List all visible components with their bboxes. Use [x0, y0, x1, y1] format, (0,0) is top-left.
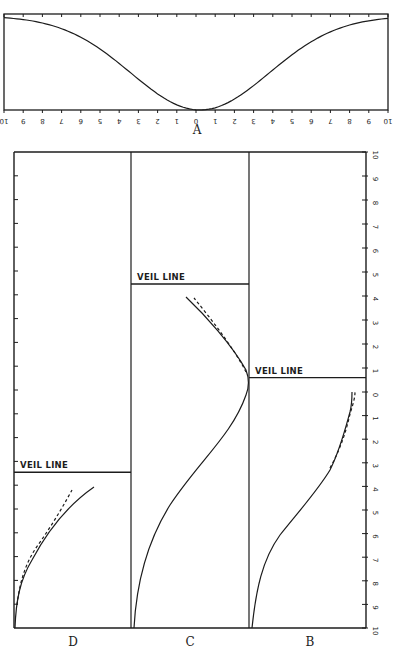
- panel-a-label: A: [192, 123, 202, 137]
- axis-a-tick-label: 2: [155, 117, 159, 125]
- axis-a-tick-label: 9: [367, 117, 371, 125]
- right-axis-tick-label: 3: [371, 321, 379, 325]
- right-axis-tick-label: 4: [371, 297, 379, 302]
- right-axis-tick-label: 4: [371, 487, 379, 492]
- panel-b-curve-solid: [252, 392, 352, 628]
- axis-a-tick-label: 2: [232, 117, 236, 125]
- panel-c-label: C: [185, 635, 194, 649]
- right-axis-tick-label: 5: [371, 273, 379, 277]
- right-axis-tick-label: 9: [371, 177, 379, 181]
- axis-a-tick-label: 7: [328, 117, 332, 125]
- axis-a-tick-label: 5: [290, 117, 294, 125]
- axis-a-tick-label: 8: [40, 117, 44, 125]
- axis-a-tick-label: 9: [21, 117, 25, 125]
- axis-a-tick-label: 1: [175, 117, 179, 125]
- axis-a-tick-label: 4: [116, 117, 121, 125]
- right-axis-tick-label: 7: [371, 225, 379, 229]
- right-axis-tick-label: 1: [371, 369, 379, 373]
- axis-a-tick-label: 10: [0, 117, 8, 125]
- right-axis-tick-label: 6: [371, 249, 379, 254]
- panel-d-curve-solid: [15, 487, 94, 628]
- axis-a-tick-label: 5: [98, 117, 102, 125]
- right-axis-tick-label: 5: [371, 511, 379, 515]
- axis-a-tick-label: 1: [213, 117, 217, 125]
- panel-c-veil-label: VEIL LINE: [137, 272, 185, 282]
- right-axis-tick-label: 10: [371, 151, 379, 160]
- panel-b-label: B: [306, 635, 315, 649]
- figure-canvas: 10987654321012345678910A1098765432101234…: [0, 0, 395, 654]
- panel-d-curve-dashed: [17, 490, 72, 605]
- right-axis-tick-label: 3: [371, 464, 379, 468]
- right-axis-tick-label: 8: [371, 201, 379, 205]
- axis-a-tick-label: 6: [308, 117, 313, 125]
- panel-b-veil-label: VEIL LINE: [255, 366, 303, 376]
- axis-a-tick-label: 3: [251, 117, 255, 125]
- right-axis-tick-label: 6: [371, 534, 379, 539]
- right-axis-tick-label: 10: [371, 627, 379, 636]
- right-axis-tick-label: 7: [371, 558, 379, 562]
- axis-a-tick-label: 8: [347, 117, 351, 125]
- right-axis-tick-label: 1: [371, 416, 379, 420]
- right-axis-tick-label: 0: [371, 393, 379, 397]
- panel-d-label: D: [68, 635, 78, 649]
- right-axis-tick-label: 2: [371, 440, 379, 444]
- axis-a-tick-label: 7: [59, 117, 63, 125]
- axis-a-tick-label: 3: [136, 117, 140, 125]
- axis-a-tick-label: 4: [270, 117, 275, 125]
- axis-a-tick-label: 6: [78, 117, 83, 125]
- panel-c-curve-dashed: [194, 298, 246, 372]
- right-axis-tick-label: 2: [371, 345, 379, 349]
- right-axis-tick-label: 9: [371, 605, 379, 609]
- right-axis-tick-label: 8: [371, 582, 379, 586]
- panel-d-veil-label: VEIL LINE: [20, 460, 68, 470]
- axis-a-tick-label: 10: [384, 117, 393, 125]
- panel-a-curve: [4, 18, 388, 110]
